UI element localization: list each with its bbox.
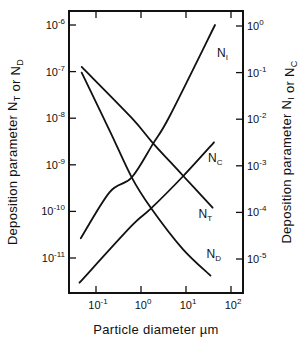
y-right-tick-label: 10-5 [247,251,267,265]
x-tick-label: 10-1 [88,297,108,311]
series-label-n-d: ND [206,247,221,263]
y-right-tick-label: 10-3 [247,158,267,172]
y-right-tick-label: 10-2 [247,111,267,125]
chart: 10-110010110210-610-710-810-910-1010-111… [0,0,303,347]
y-left-tick-label: 10-9 [46,157,66,171]
y-right-tick-label: 10-4 [247,204,267,218]
x-tick-label: 102 [225,297,242,311]
x-axis-label: Particle diameter µm [93,322,218,337]
series-label-n-i: NI [217,46,228,62]
y-left-tick-label: 10-10 [41,203,65,217]
series-label-n-t: NT [199,207,213,223]
left-y-axis-label: Deposition parameter NT or ND [5,59,25,245]
x-tick-label: 100 [135,297,152,311]
y-right-tick-label: 10-1 [247,65,267,79]
x-tick-label: 101 [180,297,197,311]
series-line-n-i [81,25,215,238]
series-line-n-c [80,142,215,282]
right-y-axis-label: Deposition parameter NI or NC [279,60,299,243]
y-right-tick-label: 100 [247,18,264,32]
series-line-n-t [82,67,213,208]
y-left-tick-label: 10-8 [46,110,66,124]
y-left-tick-label: 10-7 [46,64,66,78]
series-label-n-c: NC [208,151,223,167]
series-line-n-d [82,73,211,276]
y-left-tick-label: 10-6 [46,17,66,31]
y-left-tick-label: 10-11 [42,250,66,264]
